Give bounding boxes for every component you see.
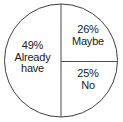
pie-slice-percent-no: 25% — [63, 68, 113, 80]
pie-slice-name-already-have-line2: have — [6, 63, 59, 75]
pie-slice-percent-maybe: 26% — [63, 24, 113, 36]
pie-chart: 49% Already have 26% Maybe 25% No — [0, 0, 123, 122]
pie-slice-name-maybe: Maybe — [63, 36, 113, 48]
pie-slice-label-already-have: 49% Already have — [6, 40, 59, 75]
pie-slice-percent-already-have: 49% — [6, 40, 59, 52]
pie-slice-name-no: No — [63, 80, 113, 92]
pie-slice-label-no: 25% No — [63, 68, 113, 91]
pie-slice-label-maybe: 26% Maybe — [63, 24, 113, 47]
